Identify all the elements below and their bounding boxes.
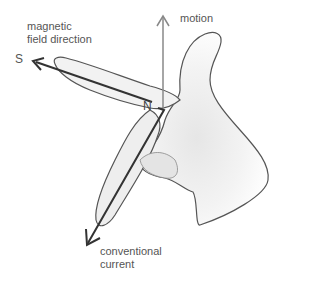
current-label: conventional current (100, 245, 162, 271)
index-finger (54, 57, 180, 108)
north-pole-label: N (143, 100, 152, 113)
current-arrow (86, 108, 164, 245)
south-pole-label: S (15, 53, 23, 66)
hand-illustration (54, 32, 268, 225)
magnetic-field-label-line2: field direction (27, 33, 92, 46)
current-label-line1: conventional (100, 245, 162, 258)
magnetic-field-label-line1: magnetic (27, 20, 92, 33)
magnetic-field-label: magnetic field direction (27, 20, 92, 46)
current-label-line2: current (100, 258, 162, 271)
motion-label: motion (180, 12, 213, 25)
